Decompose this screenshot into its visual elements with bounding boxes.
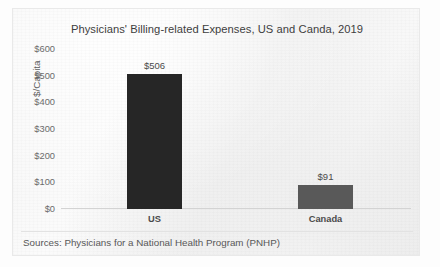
y-tick-label: $0 xyxy=(45,204,55,214)
source-note: Sources: Physicians for a National Healt… xyxy=(23,237,280,248)
y-tick-label: $300 xyxy=(34,124,55,134)
y-tick-label: $600 xyxy=(34,44,55,54)
bar-canada[interactable]: $91 Canada xyxy=(298,185,353,209)
chart-screenshot: Physicians' Billing-related Expenses, US… xyxy=(0,0,440,267)
category-label-us: US xyxy=(127,214,182,224)
bar-rect-canada[interactable] xyxy=(298,185,353,209)
category-label-canada: Canada xyxy=(298,214,353,224)
bar-value-us: $506 xyxy=(127,60,182,71)
x-axis-line xyxy=(61,208,411,209)
chart-title: Physicians' Billing-related Expenses, US… xyxy=(13,23,420,35)
plot-area: $600 $500 $400 $300 $200 $100 $0 $506 US… xyxy=(61,49,411,209)
y-tick-label: $400 xyxy=(34,97,55,107)
chart-frame: Physicians' Billing-related Expenses, US… xyxy=(12,8,420,256)
bar-rect-us[interactable] xyxy=(127,74,182,209)
y-tick-label: $500 xyxy=(34,71,55,81)
bar-value-canada: $91 xyxy=(298,171,353,182)
bar-us[interactable]: $506 US xyxy=(127,74,182,209)
source-divider xyxy=(21,231,413,232)
y-tick-label: $100 xyxy=(34,177,55,187)
y-tick-label: $200 xyxy=(34,151,55,161)
